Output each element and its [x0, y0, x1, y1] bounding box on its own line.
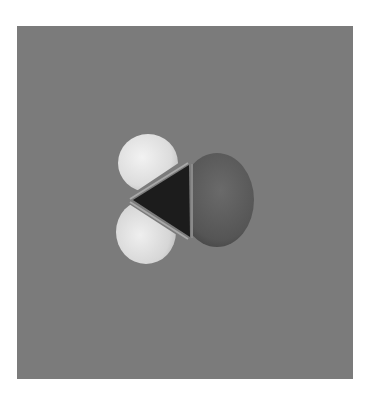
- molecule-model-illustration: [17, 26, 353, 379]
- page: Space-filling model of a molecule with t…: [0, 0, 377, 396]
- molecule-photo: [17, 26, 353, 379]
